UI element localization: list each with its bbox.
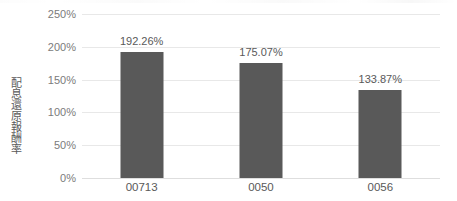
bar-value-label: 192.26%: [120, 35, 163, 47]
bar-chart: 配息還原報酬率 250% 200% 150% 100% 50% 0% 192.2…: [0, 0, 457, 201]
plot-area: 192.26% 175.07% 133.87%: [82, 0, 440, 201]
y-axis-tick-150: 150%: [26, 74, 76, 86]
y-axis-tick-250: 250%: [26, 8, 76, 20]
bar-group-00713[interactable]: 192.26%: [82, 0, 201, 201]
x-axis-category-00713: 00713: [82, 181, 201, 193]
y-axis-tick-50: 50%: [26, 139, 76, 151]
bar[interactable]: [120, 52, 163, 178]
bar-value-label: 133.87%: [359, 73, 402, 85]
bar-value-label: 175.07%: [239, 46, 282, 58]
y-axis-tick-labels: 250% 200% 150% 100% 50% 0%: [26, 0, 80, 201]
x-axis-category-labels: 00713 0050 0056: [82, 181, 440, 201]
bar-group-0050[interactable]: 175.07%: [201, 0, 320, 201]
bars-layer: 192.26% 175.07% 133.87%: [82, 0, 440, 201]
x-axis-category-0056: 0056: [321, 181, 440, 193]
x-axis-category-0050: 0050: [201, 181, 320, 193]
y-axis-tick-100: 100%: [26, 106, 76, 118]
y-axis-tick-0: 0%: [26, 172, 76, 184]
y-axis-title: 配息還原報酬率: [2, 50, 22, 180]
bar[interactable]: [359, 90, 402, 178]
y-axis-tick-200: 200%: [26, 41, 76, 53]
bar-group-0056[interactable]: 133.87%: [321, 0, 440, 201]
bar[interactable]: [239, 63, 282, 178]
